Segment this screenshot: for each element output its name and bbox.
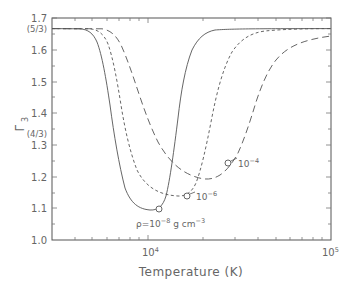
annotation-rho-1e-6: 10−6: [196, 190, 217, 202]
chart-svg: 1.7 (5/3) 1.6 1.5 1.4 (4/3) 1.3 1.2 1.1 …: [0, 0, 353, 290]
y-tick-1.5: 1.5: [31, 77, 47, 88]
y-label-four-thirds: (4/3): [27, 129, 47, 139]
y-tick-1.0: 1.0: [31, 235, 47, 246]
y-axis-title-sub: 3: [21, 117, 30, 122]
y-tick-1.3: 1.3: [31, 140, 47, 151]
y-tick-1.4: 1.4: [31, 108, 47, 119]
markers: [156, 160, 231, 212]
annotation-rho-1e-8: ρ=10−8 g cm−3: [136, 217, 205, 229]
leader-1e-6: [190, 192, 195, 194]
y-tick-1.1: 1.1: [31, 203, 47, 214]
y-tick-labels: 1.7 (5/3) 1.6 1.5 1.4 (4/3) 1.3 1.2 1.1 …: [27, 13, 47, 246]
x-tick-labels: 104 105: [142, 246, 339, 258]
marker-rho-1e-8: [156, 206, 162, 212]
gamma3-chart: 1.7 (5/3) 1.6 1.5 1.4 (4/3) 1.3 1.2 1.1 …: [0, 0, 353, 290]
curve-rho-1e-8: [52, 29, 331, 210]
y-tick-1.6: 1.6: [31, 45, 47, 56]
y-axis-title-main: Γ: [13, 124, 27, 131]
x-tick-1e5: 105: [322, 246, 339, 258]
curves: [52, 29, 331, 210]
annotation-rho-1e-4: 10−4: [238, 157, 259, 169]
x-axis-title: Temperature (K): [138, 265, 244, 279]
marker-rho-1e-4: [225, 160, 231, 166]
marker-rho-1e-6: [184, 193, 190, 199]
y-label-five-thirds: (5/3): [27, 24, 47, 34]
curve-rho-1e-6: [52, 29, 331, 196]
x-tick-1e4: 104: [142, 246, 159, 258]
y-tick-1.2: 1.2: [31, 172, 47, 183]
y-tick-1.7: 1.7: [31, 13, 47, 24]
